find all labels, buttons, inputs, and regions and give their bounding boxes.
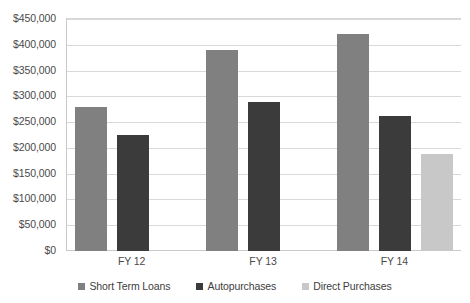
bar-slot xyxy=(379,19,411,251)
legend-swatch-icon xyxy=(196,283,203,290)
chart-legend: Short Term LoansAutopurchasesDirect Purc… xyxy=(0,281,470,292)
x-axis: FY 12FY 13FY 14 xyxy=(66,254,460,272)
bar-slot xyxy=(290,19,322,251)
bar-slot xyxy=(421,19,453,251)
bar[interactable] xyxy=(75,107,107,251)
bar-group xyxy=(198,19,329,251)
y-tick-label: $0 xyxy=(45,245,56,255)
y-tick-label: $200,000 xyxy=(13,142,56,152)
legend-item[interactable]: Short Term Loans xyxy=(78,281,170,292)
bar-slot xyxy=(159,19,191,251)
bars-layer xyxy=(67,19,461,251)
legend-item[interactable]: Direct Purchases xyxy=(302,281,391,292)
legend-swatch-icon xyxy=(302,283,309,290)
bar[interactable] xyxy=(379,116,411,251)
bar-chart: $0$50,000$100,000$150,000$200,000$250,00… xyxy=(0,0,470,303)
bar[interactable] xyxy=(248,102,280,252)
y-axis: $0$50,000$100,000$150,000$200,000$250,00… xyxy=(0,0,62,260)
legend-swatch-icon xyxy=(78,283,85,290)
bar-slot xyxy=(337,19,369,251)
y-tick-label: $50,000 xyxy=(19,219,56,229)
bar-slot xyxy=(248,19,280,251)
bar[interactable] xyxy=(337,34,369,251)
y-tick-label: $150,000 xyxy=(13,168,56,178)
bar-group xyxy=(330,19,461,251)
y-tick-label: $300,000 xyxy=(13,90,56,100)
bar[interactable] xyxy=(421,154,453,251)
legend-label: Short Term Loans xyxy=(89,281,170,292)
legend-item[interactable]: Autopurchases xyxy=(196,281,276,292)
x-tick-label: FY 14 xyxy=(329,254,460,272)
x-tick-label: FY 13 xyxy=(197,254,328,272)
y-tick-label: $100,000 xyxy=(13,193,56,203)
y-tick-label: $400,000 xyxy=(13,39,56,49)
bar-slot xyxy=(206,19,238,251)
bar-group xyxy=(67,19,198,251)
bar-slot xyxy=(117,19,149,251)
y-tick-label: $250,000 xyxy=(13,116,56,126)
plot-area xyxy=(66,18,461,251)
y-tick-label: $450,000 xyxy=(13,13,56,23)
x-tick-label: FY 12 xyxy=(66,254,197,272)
bar-slot xyxy=(75,19,107,251)
bar[interactable] xyxy=(117,135,149,251)
y-tick-label: $350,000 xyxy=(13,65,56,75)
bar[interactable] xyxy=(206,50,238,251)
legend-label: Direct Purchases xyxy=(313,281,391,292)
legend-label: Autopurchases xyxy=(207,281,276,292)
